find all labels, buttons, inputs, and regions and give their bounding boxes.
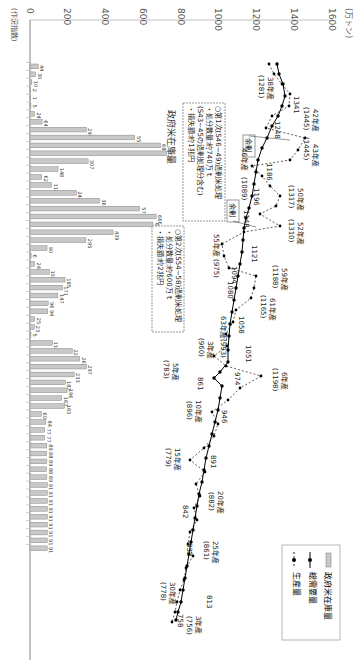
stock-bar xyxy=(30,222,153,227)
stock-bar-value: 91 xyxy=(48,523,54,529)
stock-bar xyxy=(30,269,49,274)
stock-bar xyxy=(30,538,47,543)
svg-text:30年産: 30年産 xyxy=(168,582,177,605)
data-point xyxy=(279,225,282,228)
svg-text:(1310): (1310) xyxy=(287,219,295,243)
data-point xyxy=(181,588,184,591)
stock-bar xyxy=(30,506,47,511)
svg-text:1080: 1080 xyxy=(226,281,234,299)
stock-bar xyxy=(30,238,86,243)
stock-bar xyxy=(30,309,48,314)
stock-bar xyxy=(30,546,47,551)
stock-bar xyxy=(30,64,38,69)
stock-bar-value: 24 xyxy=(36,263,42,269)
svg-text:63年産: 63年産 xyxy=(219,316,228,339)
stock-bar-value: 2 xyxy=(32,89,38,92)
data-point xyxy=(239,387,242,390)
box1-line1: ○第1次(S46~49)過剰米処理 xyxy=(214,106,223,199)
svg-text:842: 842 xyxy=(181,505,189,518)
data-point xyxy=(232,321,235,324)
stock-bar xyxy=(30,372,74,377)
svg-text:1186: 1186 xyxy=(265,163,273,181)
tick-400: 400 xyxy=(100,8,110,25)
stock-bar-value: 88 xyxy=(48,468,54,474)
stock-bar xyxy=(30,293,58,298)
stock-bar xyxy=(30,467,47,472)
data-point xyxy=(200,480,203,483)
data-point xyxy=(216,408,219,411)
svg-text:891: 891 xyxy=(209,455,217,468)
svg-text:55年産: 55年産 xyxy=(212,234,221,257)
stock-bar-value: 295 xyxy=(87,239,93,249)
stock-bar-value: 91 xyxy=(48,539,54,545)
svg-text:1148: 1148 xyxy=(242,210,250,228)
stock-bar-value: 6 xyxy=(32,255,38,258)
stock-bar-value: 64 xyxy=(43,120,49,126)
svg-text:1121: 1121 xyxy=(250,245,258,263)
stock-bar-value: 96 xyxy=(49,302,55,308)
svg-text:(1317): (1317) xyxy=(287,185,295,209)
stock-bar-value: 297 xyxy=(87,365,93,375)
stock-bar-value: 91 xyxy=(48,500,54,506)
tick-1000: 1000 xyxy=(213,8,223,31)
svg-text:1248: 1248 xyxy=(273,121,281,139)
stock-bar-value: 233 xyxy=(75,373,81,383)
stock-bar-value: 439 xyxy=(114,231,120,241)
legend-demand-label: 総需要量 xyxy=(308,572,318,604)
data-point xyxy=(204,456,207,459)
data-point xyxy=(283,94,286,97)
data-point xyxy=(193,507,196,510)
svg-text:52年産: 52年産 xyxy=(296,222,305,245)
stock-bar-value: 1 xyxy=(32,97,38,100)
stock-bar xyxy=(30,190,76,195)
stock-bar xyxy=(30,135,135,140)
stock-bar xyxy=(30,104,31,109)
svg-text:(1198): (1198) xyxy=(271,368,279,392)
data-point xyxy=(193,516,196,519)
rotated-chart: 0 200 400 600 800 1000 1200 1400 1600 (万… xyxy=(0,0,361,672)
svg-text:1058: 1058 xyxy=(237,316,245,334)
data-point xyxy=(195,483,198,486)
svg-text:20年産: 20年産 xyxy=(216,491,225,514)
data-point xyxy=(191,528,194,531)
stock-bar xyxy=(30,230,113,235)
stock-bar-value: 84 xyxy=(47,421,53,427)
svg-text:6年産: 6年産 xyxy=(280,372,289,390)
stock-bar xyxy=(30,341,52,346)
data-point xyxy=(202,468,205,471)
data-point xyxy=(252,182,255,185)
data-point xyxy=(288,105,291,108)
data-point xyxy=(277,72,280,75)
stock-bar xyxy=(30,530,47,535)
data-point xyxy=(289,93,292,96)
data-point xyxy=(223,255,226,258)
stock-bar xyxy=(30,475,47,480)
data-point xyxy=(226,360,229,363)
stock-bar-value: 44 xyxy=(39,65,45,71)
data-point xyxy=(276,114,279,117)
index-note-label: (作況指数) xyxy=(10,8,19,42)
stock-bar xyxy=(30,364,86,369)
stock-bar-value: 89 xyxy=(48,444,54,450)
svg-text:25年産: 25年産 xyxy=(211,541,220,564)
svg-text:(756): (756) xyxy=(185,616,193,635)
data-point xyxy=(271,115,274,118)
stock-bar xyxy=(30,317,35,322)
data-point xyxy=(240,250,243,253)
data-point xyxy=(203,447,206,450)
data-point xyxy=(171,621,174,624)
stock-bar xyxy=(30,111,35,116)
data-point xyxy=(221,243,224,246)
data-point xyxy=(207,444,210,447)
data-point xyxy=(189,531,192,534)
svg-text:(896): (896) xyxy=(185,401,193,420)
stock-bar xyxy=(30,427,45,432)
stock-bar-value: 91 xyxy=(48,492,54,498)
svg-text:43年産: 43年産 xyxy=(311,144,320,167)
svg-text:50年産: 50年産 xyxy=(296,188,305,211)
data-point xyxy=(273,73,276,76)
box1-line3: (S43~45の過剰処理分含む) xyxy=(196,106,205,196)
annotation-box-1: ○第1次(S46~49)過剰米処理 ・処分数量:約740万ｔ (S43~45の過… xyxy=(183,103,225,221)
data-point xyxy=(269,185,272,188)
stock-bar-value: 30 xyxy=(37,73,43,79)
